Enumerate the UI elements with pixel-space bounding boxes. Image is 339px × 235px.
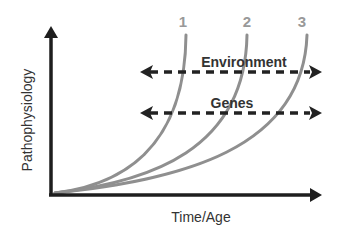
curve-label-1: 1 bbox=[179, 13, 187, 30]
x-axis-arrow-icon bbox=[310, 188, 322, 202]
arrow-right-icon bbox=[309, 106, 322, 120]
y-axis-arrow-icon bbox=[44, 26, 58, 38]
diagram-canvas: 1 2 3 Environment Genes Time/Age Pathoph… bbox=[0, 0, 339, 235]
genes-label: Genes bbox=[211, 95, 254, 111]
environment-label: Environment bbox=[201, 54, 287, 70]
curve-label-3: 3 bbox=[298, 13, 306, 30]
arrow-right-icon bbox=[309, 65, 322, 79]
curve-label-2: 2 bbox=[243, 13, 251, 30]
x-axis-label: Time/Age bbox=[171, 209, 231, 225]
y-axis-label: Pathophysiology bbox=[19, 69, 35, 172]
